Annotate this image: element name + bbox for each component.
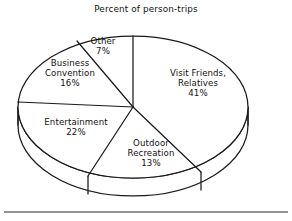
slice-label-outdoor-recreation: Outdoor Recreation 13% (108, 138, 194, 169)
slice-label-line2: Relatives (152, 78, 244, 88)
slice-label-line2: Recreation (108, 148, 194, 158)
slice-value: 41% (152, 88, 244, 98)
slice-label-line1: Other (73, 36, 133, 46)
slice-label-visit-friends-relatives: Visit Friends, Relatives 41% (152, 68, 244, 99)
slice-label-line2: Convention (18, 68, 122, 78)
slice-label-line1: Outdoor (108, 138, 194, 148)
slice-value: 16% (18, 78, 122, 88)
slice-value: 13% (108, 158, 194, 168)
slice-label-line1: Business (18, 58, 122, 68)
slice-label-line1: Visit Friends, (152, 68, 244, 78)
slice-value: 22% (22, 127, 130, 137)
slice-label-entertainment: Entertainment 22% (22, 117, 130, 137)
slice-value: 7% (73, 46, 133, 56)
pie-chart-graphic (0, 0, 292, 221)
slice-label-other: Other 7% (73, 36, 133, 56)
slice-label-business-convention: Business Convention 16% (18, 58, 122, 89)
slice-label-line1: Entertainment (22, 117, 130, 127)
pie-chart-figure: Percent of person-trips Visit Friends, R… (0, 0, 292, 221)
